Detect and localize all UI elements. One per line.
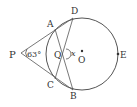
label-x: x (71, 49, 76, 58)
label-d: D (71, 6, 78, 16)
label-c: C (47, 80, 54, 90)
center-dot-o (81, 50, 83, 52)
label-angle-p: 63° (27, 50, 41, 59)
label-e: E (120, 50, 127, 60)
label-o: O (78, 55, 85, 65)
label-p: P (9, 49, 16, 60)
label-b: B (70, 91, 77, 101)
point-dot-e (117, 53, 120, 56)
geometry-diagram: P 63° A D C B Q x O E (0, 0, 137, 107)
label-a: A (46, 19, 54, 29)
label-q: Q (54, 50, 61, 60)
